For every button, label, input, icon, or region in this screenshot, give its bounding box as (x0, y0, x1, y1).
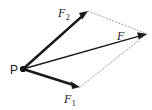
dotted-edge-f1-to-f (80, 34, 147, 87)
force-diagram: P F2 F F1 (0, 0, 152, 110)
label-vector-f1-base: F (63, 92, 72, 106)
label-point-p: P (10, 63, 18, 77)
label-vector-f1: F1 (63, 92, 76, 108)
vector-canvas: P F2 F F1 (0, 0, 152, 110)
vector-f1-arrowhead (71, 81, 80, 89)
vector-f-group (23, 32, 147, 69)
label-vector-f-base: F (116, 29, 125, 43)
vector-f-arrowhead (137, 32, 147, 39)
label-vector-f: F (116, 29, 125, 43)
label-vector-f1-subscript: 1 (72, 99, 76, 108)
vector-f1-shaft (23, 69, 74, 85)
label-vector-f2-subscript: 2 (66, 13, 70, 22)
vector-f1-group (23, 69, 80, 89)
label-vector-f2-base: F (57, 6, 66, 20)
label-vector-f2: F2 (57, 6, 70, 22)
origin-point-dot (20, 66, 26, 72)
construction-lines-group (80, 11, 147, 87)
